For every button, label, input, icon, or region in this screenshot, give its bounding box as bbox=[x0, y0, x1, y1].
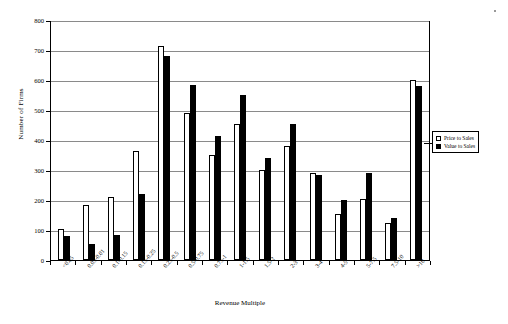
bar-value-to-sales bbox=[341, 200, 347, 260]
bar-group bbox=[76, 21, 101, 260]
legend-swatch-price-to-sales bbox=[436, 136, 441, 141]
legend-swatch-value-to-sales bbox=[436, 144, 441, 149]
bar-value-to-sales bbox=[190, 85, 196, 261]
bar-group bbox=[101, 21, 126, 260]
revenue-multiple-bar-chart: Number of Firms 010020030040050060070080… bbox=[0, 0, 508, 324]
bar-value-to-sales bbox=[139, 194, 145, 260]
bar-group bbox=[127, 21, 152, 260]
bar-group bbox=[253, 21, 278, 260]
y-axis-tick-label: 500 bbox=[4, 108, 44, 115]
bar-group bbox=[303, 21, 328, 260]
bar-group bbox=[227, 21, 252, 260]
y-axis-tick-label: 600 bbox=[4, 78, 44, 85]
bar-value-to-sales bbox=[265, 158, 271, 260]
bar-value-to-sales bbox=[391, 218, 397, 260]
bar-group bbox=[353, 21, 378, 260]
bar-value-to-sales bbox=[240, 95, 246, 260]
bar-group bbox=[278, 21, 303, 260]
chart-legend: Price to Sales Value to Sales bbox=[432, 131, 479, 153]
legend-item-value-to-sales: Value to Sales bbox=[436, 142, 475, 150]
legend-item-price-to-sales: Price to Sales bbox=[436, 134, 475, 142]
y-axis-tick-label: 300 bbox=[4, 168, 44, 175]
x-axis-tick-mark bbox=[430, 261, 431, 265]
bar-value-to-sales bbox=[215, 136, 221, 261]
y-axis-tick-label: 700 bbox=[4, 48, 44, 55]
bar-value-to-sales bbox=[164, 56, 170, 260]
legend-label-price-to-sales: Price to Sales bbox=[444, 134, 474, 142]
y-axis-tick-label: 800 bbox=[4, 18, 44, 25]
bar-group bbox=[177, 21, 202, 260]
bar-value-to-sales bbox=[290, 124, 296, 261]
y-axis-tick-label: 0 bbox=[4, 258, 44, 265]
bar-group bbox=[328, 21, 353, 260]
y-axis-tick-labels: 0100200300400500600700800 bbox=[0, 0, 50, 262]
bar-group bbox=[51, 21, 76, 260]
scan-artifact-dot bbox=[494, 10, 496, 12]
bar-groups bbox=[51, 21, 429, 260]
bar-group bbox=[152, 21, 177, 260]
plot-area bbox=[50, 21, 430, 261]
y-axis-tick-label: 100 bbox=[4, 228, 44, 235]
bar-group bbox=[404, 21, 429, 260]
bar-group bbox=[379, 21, 404, 260]
x-axis-title: Revenue Multiple bbox=[50, 299, 430, 307]
bar-value-to-sales bbox=[366, 173, 372, 260]
legend-label-value-to-sales: Value to Sales bbox=[444, 142, 475, 150]
bar-value-to-sales bbox=[316, 175, 322, 261]
y-axis-tick-label: 400 bbox=[4, 138, 44, 145]
bar-group bbox=[202, 21, 227, 260]
bar-value-to-sales bbox=[416, 86, 422, 260]
y-axis-tick-label: 200 bbox=[4, 198, 44, 205]
legend-leader-line bbox=[424, 143, 432, 144]
